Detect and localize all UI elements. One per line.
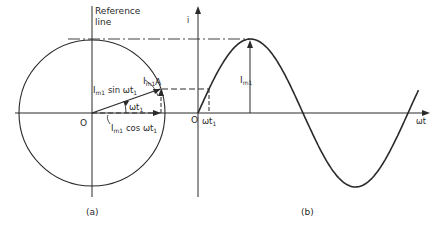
y-axis-label: i [187, 16, 189, 25]
caption-a: (a) [86, 207, 99, 217]
svg-text:Reference: Reference [95, 6, 141, 16]
point-a-label: A [155, 77, 162, 87]
sin-label: Im1 sin ωt1 [93, 85, 137, 96]
origin-a: O [80, 118, 87, 128]
x-axis-arrow [422, 110, 430, 116]
caption-b: (b) [301, 207, 314, 217]
phasor-diagram: Reference line O A Im1 Im1 sin ωt1 ωt1 I… [0, 0, 438, 229]
angle-label: ωt1 [129, 102, 143, 113]
cos-label: Im1 cos ωt1 [111, 123, 157, 134]
cos-arrowhead [153, 110, 161, 116]
x-axis-label: ωt [416, 117, 426, 126]
t1-label: ωt1 [202, 116, 216, 127]
phasor-label: Im1 [143, 76, 156, 87]
current-axis-arrow [195, 6, 201, 14]
amplitude-arrowhead [247, 40, 253, 48]
origin-b: O [191, 115, 198, 125]
amplitude-label: Im1 [240, 75, 253, 86]
reference-label-2: line [95, 17, 112, 27]
reference-label-1: Reference [95, 6, 141, 16]
cos-leader [107, 115, 110, 124]
svg-text:line: line [95, 17, 112, 27]
